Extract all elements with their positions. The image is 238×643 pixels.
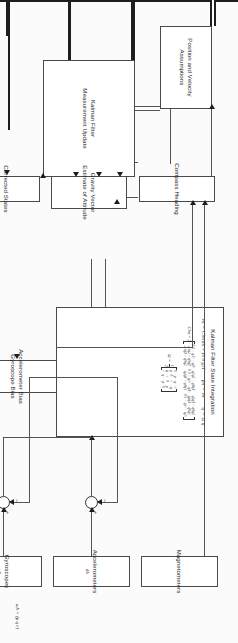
arrow-bias-to-sum-accel bbox=[97, 499, 102, 505]
block-accelerometers[interactable]: Accelerometers ãb bbox=[53, 556, 130, 587]
kfmu-line2: Measurement Update bbox=[81, 88, 89, 148]
omega-label: Ω = bbox=[166, 354, 172, 362]
wire-integration-to-compass-v bbox=[56, 347, 193, 348]
block-magnetometers[interactable]: Magnetometers bbox=[141, 556, 218, 587]
dcm-row: q1q2 + q0q3 0.5 − q1² − q3² q2q3 − q0q1 bbox=[187, 344, 191, 418]
omega-cell: −q bbox=[173, 378, 177, 384]
omega-row: q −r 0 p bbox=[165, 369, 169, 389]
block-gravity-vector-estimate-of-attitude[interactable]: Gravity Vector Estimate of Attitude bbox=[51, 176, 127, 209]
block-gyroscopes[interactable]: Gyroscopes ω̃b bbox=[0, 556, 42, 587]
wire-integration-to-kfmu-bold bbox=[8, 0, 10, 130]
arrow-integration-to-gravity bbox=[114, 199, 120, 204]
wire-bias-bold-up bbox=[135, 0, 152, 2]
gyro-components-annotation: ω̃b = [p q r] bbox=[15, 604, 20, 629]
dcm-row: q1q3 − q0q2 q2q3 + q0q1 0.5 − q1² − q2² bbox=[183, 344, 187, 418]
wire-sum-gyro-to-integration-v bbox=[4, 437, 92, 438]
wire-accel-to-sum bbox=[91, 509, 92, 556]
compass-label: Compass Heading bbox=[173, 163, 181, 215]
dcm-matrix: 0.5 − q2² − q3² q1q2 − q0q3 q1q3 + q0q2 … bbox=[183, 344, 195, 418]
dcm-cell: q1q3 + q0q2 bbox=[191, 393, 195, 418]
wire-bias-rail-gyro bbox=[29, 377, 30, 502]
omega-cell: −p bbox=[161, 378, 165, 384]
kfmu-line1: Kalman Filter bbox=[89, 100, 97, 137]
accelerometers-symbol: ãb bbox=[84, 569, 90, 574]
wire-integration-to-compass bbox=[192, 202, 193, 347]
omega-matrix: 0 −p −q −r p 0 r −q q −r 0 bbox=[161, 369, 177, 389]
dcm-cell: q2q3 − q0q1 bbox=[187, 393, 191, 418]
omega-row: 0 −p −q −r bbox=[173, 369, 177, 389]
wire-integration-to-gravity-v bbox=[71, 0, 131, 2]
dcm-cell: q1q2 − q0q3 bbox=[191, 368, 195, 393]
wire-kfmu-to-corrected-bold-v bbox=[0, 0, 6, 2]
state-integration-title: Kalman Filter State Integration bbox=[209, 329, 217, 414]
arrow-gyro-to-sum bbox=[1, 507, 7, 512]
block-corrected-states[interactable]: Corrected States bbox=[0, 176, 40, 202]
gyroscopes-label: Gyroscopes bbox=[4, 555, 12, 589]
gyroscopes-symbol: ω̃b bbox=[0, 568, 2, 574]
dcm-cell: 0.5 − q1² − q2² bbox=[183, 393, 187, 418]
dcm-table: 0.5 − q2² − q3² q1q2 − q0q3 q1q3 + q0q2 … bbox=[183, 344, 195, 418]
dcm-cell: 0.5 − q1² − q3² bbox=[187, 368, 191, 393]
arrow-into-kfmu-gravity bbox=[73, 172, 79, 177]
dcm-row: 0.5 − q2² − q3² q1q2 − q0q3 q1q3 + q0q2 bbox=[191, 344, 195, 418]
wire-bias-rail-accel bbox=[117, 377, 118, 502]
pv-line2: Assumptions bbox=[178, 50, 186, 86]
dcm-cell: q2q3 + q0q1 bbox=[183, 368, 187, 393]
omega-equation: Ω = 1 2 0 −p −q −r p 0 r bbox=[161, 354, 177, 389]
pv-line1: Position and Velocity bbox=[186, 38, 194, 96]
block-kalman-filter-state-integration[interactable]: Kalman Filter State Integration v̇n = Cb… bbox=[56, 307, 224, 437]
gravity-line2: Estimate of Attitude bbox=[81, 165, 89, 220]
arrow-accel-to-sum bbox=[89, 507, 95, 512]
dcm-equation: Cbn = 2 0.5 − q2² − q3² q1q2 − q0q3 q1q3… bbox=[183, 326, 195, 417]
block-position-velocity-assumptions[interactable]: Position and Velocity Assumptions bbox=[160, 26, 212, 109]
arrow-into-kfmu-compass bbox=[96, 172, 102, 177]
wire-kfmu-to-corrected-bold bbox=[6, 0, 8, 36]
wire-sum-accel-to-integration bbox=[91, 437, 92, 496]
bias-line2: Gyroscope Bias bbox=[9, 354, 17, 398]
arrow-into-bias-block bbox=[14, 354, 20, 359]
arrow-integration-to-compass bbox=[190, 200, 196, 205]
arrow-into-kfmu-pv bbox=[117, 172, 123, 177]
block-compass-heading[interactable]: Compass Heading bbox=[139, 176, 215, 202]
wire-gyro-to-sum bbox=[3, 509, 4, 556]
wire-magnetometer-to-compass bbox=[204, 202, 205, 556]
arrow-into-corrected-states bbox=[4, 170, 10, 175]
wire-kfmu-to-corrected-h bbox=[214, 0, 216, 26]
wire-corrected-feedback-v bbox=[10, 0, 68, 2]
gravity-line1: Gravity Vector bbox=[89, 173, 97, 213]
wire-bias-rail-link bbox=[30, 377, 118, 378]
magnetometers-label: Magnetometers bbox=[176, 550, 184, 594]
block-kalman-filter-measurement-update[interactable]: Kalman Filter Measurement Update bbox=[43, 60, 135, 177]
accelerometers-label: Accelerometers bbox=[92, 550, 100, 594]
wire-kfmu-to-corrected-v bbox=[216, 0, 238, 2]
arrow-integration-to-kfmu bbox=[40, 173, 46, 178]
wire-corrected-rail-h bbox=[170, 106, 171, 164]
arrow-bias-to-sum-gyro bbox=[9, 499, 14, 505]
omega-row: r q −p 0 bbox=[161, 369, 165, 389]
arrow-magnetometer-to-compass bbox=[202, 200, 208, 205]
arrow-into-pv-assumptions bbox=[209, 104, 215, 109]
scanned-figure-page: Position and Velocity Assumptions Kalman… bbox=[0, 0, 238, 643]
wire-bias-bold-drop bbox=[152, 0, 210, 2]
diagram-canvas: Position and Velocity Assumptions Kalman… bbox=[0, 0, 238, 643]
omega-cell: −p bbox=[173, 373, 177, 379]
wire-sum-gyro-to-integration-h bbox=[3, 437, 4, 496]
omega-table: 0 −p −q −r p 0 r −q q −r 0 bbox=[161, 369, 177, 389]
